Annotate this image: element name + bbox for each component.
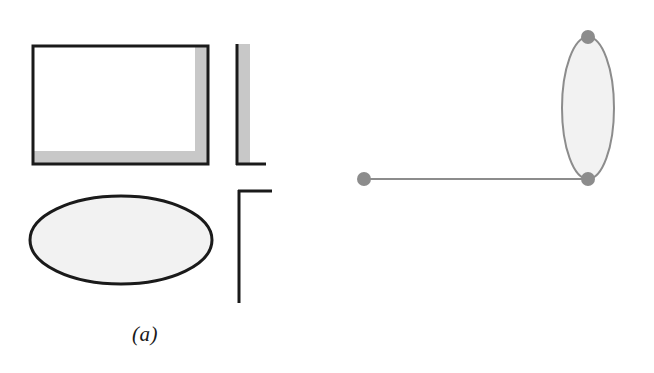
corner-bracket [238,190,272,303]
node-top [581,30,595,44]
rectangle-bottom-shadow-band [33,151,208,164]
rectangle-right-shadow-band [195,46,208,164]
lens-loop [562,37,614,179]
panel-a-shape-layer [0,0,327,373]
rectangle-interior [33,46,208,164]
panel-a-caption: (a) [85,322,205,347]
panel-b-shape-layer [327,0,654,373]
node-left [357,172,371,186]
vertical-shadow-bar [236,44,266,165]
node-bottom [581,172,595,186]
vertical-bar-gray-fill [238,44,250,164]
panel-b: (b) [327,0,654,373]
ellipse-outline [30,196,212,284]
figure-root: (a) (b) [0,0,654,373]
shadowed-rectangle [33,46,208,164]
panel-a: (a) [0,0,327,373]
